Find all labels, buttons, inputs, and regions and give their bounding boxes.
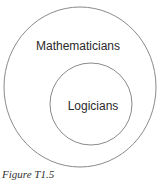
logicians-label: Logicians — [68, 99, 119, 113]
mathematicians-label: Mathematicians — [36, 39, 120, 53]
euler-diagram: Mathematicians Logicians — [0, 0, 159, 180]
figure-caption: Figure T1.5 — [2, 168, 54, 180]
